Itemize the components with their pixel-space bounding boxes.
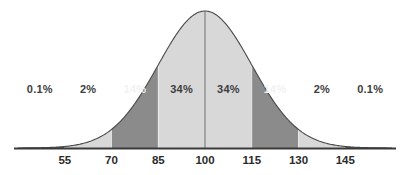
x-tick-label-130: 130 (289, 154, 308, 166)
band-34pct-3 (158, 11, 205, 148)
normal-distribution-chart: 0.1%2%14%34%34%14%2%0.1% 557085100115130… (0, 0, 412, 175)
x-tick-label-55: 55 (58, 154, 71, 166)
distribution-bands (18, 11, 392, 148)
x-tick-label-115: 115 (243, 154, 262, 166)
band-34pct-4 (205, 11, 252, 148)
x-tick-label-70: 70 (105, 154, 118, 166)
x-tick-label-100: 100 (195, 154, 214, 166)
x-tick-label-85: 85 (152, 154, 165, 166)
bell-curve-graphic (0, 0, 412, 175)
x-tick-label-145: 145 (336, 154, 355, 166)
